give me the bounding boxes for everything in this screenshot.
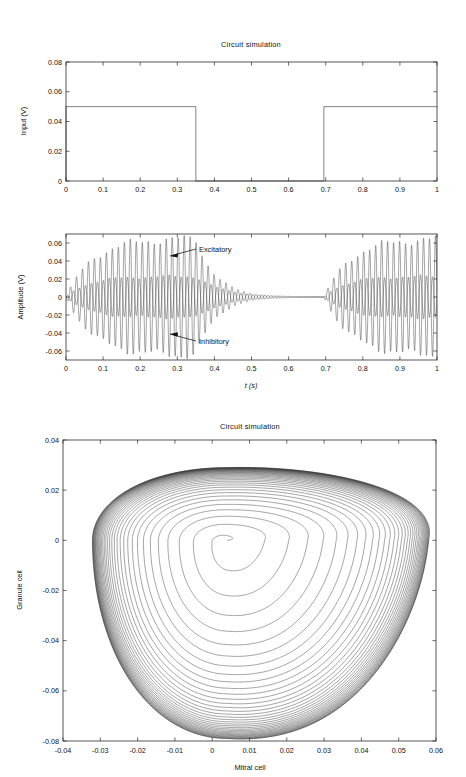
x-tick-label: 0.06 (429, 746, 443, 755)
phase-x-tick-labels: -0.04-0.03-0.02-0.0100.010.020.030.040.0… (55, 746, 443, 755)
y-tick-label: 0.04 (45, 436, 59, 445)
amplitude-panel: Excitatory Inhibitory 00.10.20.30.40.50.… (0, 222, 466, 394)
x-tick-label: 0 (210, 746, 214, 755)
amplitude-y-tick-labels: -0.06-0.04-0.0200.020.040.06 (46, 239, 62, 356)
y-tick-label: 0.02 (48, 147, 62, 156)
x-tick-label: -0.01 (167, 746, 183, 755)
input-x-tick-labels: 00.10.20.30.40.50.60.70.80.91 (64, 185, 439, 194)
x-tick-label: 0.2 (135, 364, 145, 373)
phase-chart: Circuit simulation -0.04-0.03-0.02-0.010… (0, 412, 466, 777)
x-tick-label: 0.04 (354, 746, 368, 755)
phase-chart-title: Circuit simulation (220, 422, 280, 431)
x-tick-label: 0.6 (284, 185, 294, 194)
x-tick-label: 0.1 (98, 364, 108, 373)
y-tick-label: -0.04 (46, 329, 62, 338)
x-tick-label: 0.5 (247, 185, 257, 194)
x-tick-label: 0.7 (321, 364, 331, 373)
y-tick-label: 0.02 (48, 275, 62, 284)
input-plot-frame (66, 62, 437, 181)
y-tick-label: -0.06 (43, 686, 59, 695)
y-tick-label: 0.02 (45, 486, 59, 495)
amplitude-chart: Excitatory Inhibitory 00.10.20.30.40.50.… (0, 222, 466, 394)
x-tick-label: 0.02 (280, 746, 294, 755)
x-tick-label: 0.4 (209, 364, 219, 373)
amplitude-y-axis-label: Amplitude (V) (16, 275, 25, 320)
y-tick-label: 0 (58, 293, 62, 302)
phase-x-axis-label: Mitral cell (234, 763, 266, 772)
y-tick-label: 0.06 (48, 239, 62, 248)
amplitude-x-axis-label: t (s) (245, 381, 258, 390)
inhibitory-annotation-label: Inhibitory (199, 337, 229, 346)
y-tick-label: 0.08 (48, 58, 62, 67)
input-chart: Circuit simulation 00.10.20.30.40.50.60.… (0, 30, 466, 205)
x-tick-label: 1 (435, 364, 439, 373)
x-tick-label: 0.3 (172, 364, 182, 373)
x-tick-label: 0.9 (395, 364, 405, 373)
x-tick-label: 0 (64, 185, 68, 194)
phase-y-tick-labels: -0.08-0.06-0.04-0.0200.020.04 (43, 436, 59, 746)
x-tick-label: -0.03 (92, 746, 108, 755)
x-tick-label: 0.8 (358, 364, 368, 373)
y-tick-label: -0.04 (43, 636, 59, 645)
y-tick-label: 0.06 (48, 87, 62, 96)
input-y-tick-labels: 00.020.040.060.08 (48, 58, 62, 186)
x-tick-label: 0.2 (135, 185, 145, 194)
x-tick-label: 0.9 (395, 185, 405, 194)
x-tick-label: 0.5 (247, 364, 257, 373)
y-tick-label: -0.02 (46, 311, 62, 320)
x-tick-label: 0.8 (358, 185, 368, 194)
amplitude-x-tick-labels: 00.10.20.30.40.50.60.70.80.91 (64, 364, 439, 373)
excitatory-annotation: Excitatory (170, 245, 232, 258)
x-tick-label: 0.03 (317, 746, 331, 755)
y-tick-label: 0 (58, 177, 62, 186)
x-tick-label: 0.7 (321, 185, 331, 194)
excitatory-waveform (66, 275, 437, 319)
x-tick-label: -0.04 (55, 746, 71, 755)
x-tick-label: -0.02 (129, 746, 145, 755)
y-tick-label: -0.06 (46, 347, 62, 356)
y-tick-label: -0.02 (43, 586, 59, 595)
x-tick-label: 0 (64, 364, 68, 373)
phase-panel: Circuit simulation -0.04-0.03-0.02-0.010… (0, 412, 466, 777)
input-panel: Circuit simulation 00.10.20.30.40.50.60.… (0, 30, 466, 205)
input-chart-title: Circuit simulation (221, 40, 281, 49)
phase-y-axis-label: Granule cell (15, 570, 24, 610)
x-tick-label: 0.01 (243, 746, 257, 755)
input-waveform (66, 107, 437, 181)
x-tick-label: 0.4 (209, 185, 219, 194)
y-tick-label: -0.08 (43, 737, 59, 746)
x-tick-label: 0.3 (172, 185, 182, 194)
x-tick-label: 0.05 (392, 746, 406, 755)
excitatory-annotation-label: Excitatory (199, 245, 232, 254)
x-tick-label: 1 (435, 185, 439, 194)
y-tick-label: 0.04 (48, 257, 62, 266)
y-tick-label: 0 (55, 536, 59, 545)
x-tick-label: 0.6 (284, 364, 294, 373)
x-tick-label: 0.1 (98, 185, 108, 194)
input-axis-ticks (66, 62, 437, 181)
y-tick-label: 0.04 (48, 117, 62, 126)
phase-trajectory (92, 467, 429, 739)
input-y-axis-label: Input (V) (19, 107, 28, 135)
